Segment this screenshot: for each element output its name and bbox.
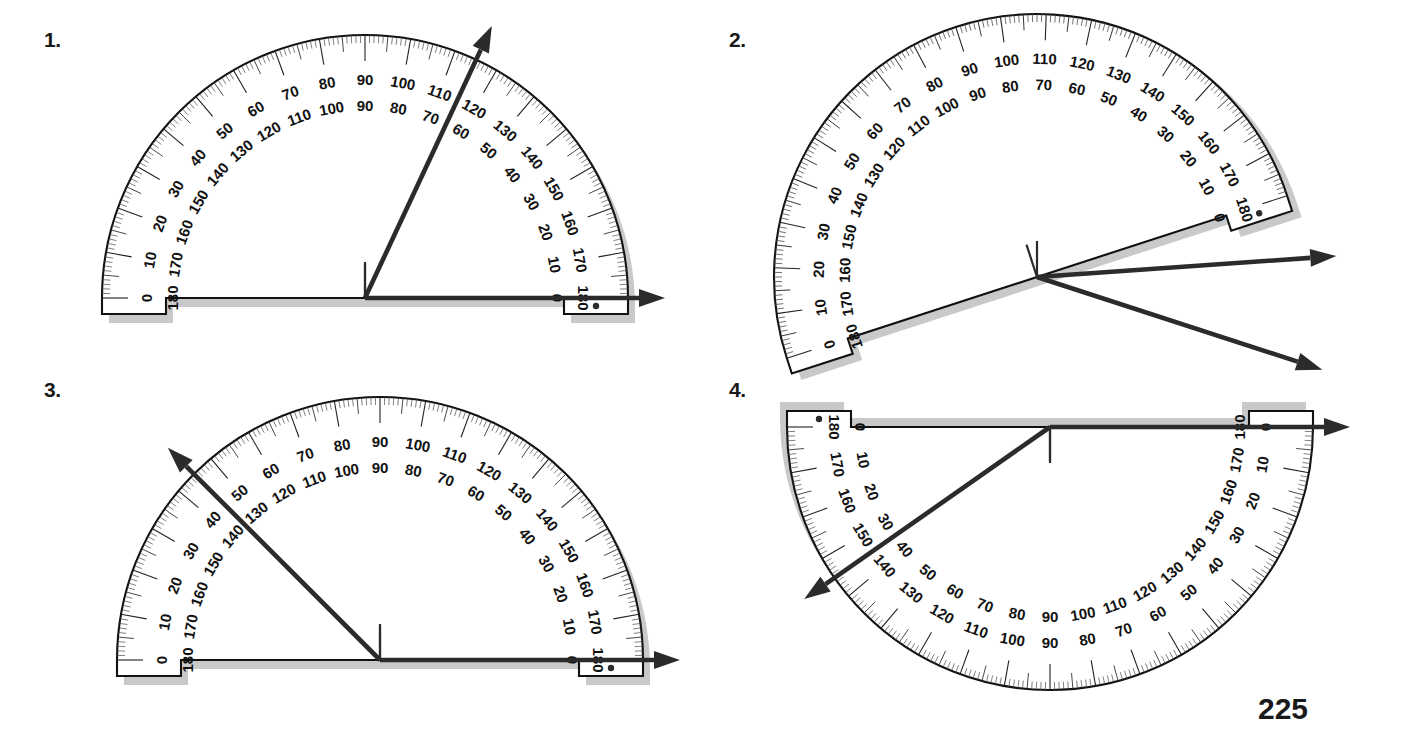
outer-scale-label: 180 — [826, 414, 843, 439]
ray-baseline — [1037, 277, 1298, 362]
outer-scale-label: 90 — [1042, 634, 1059, 651]
outer-scale-label: 10 — [1252, 455, 1272, 474]
outer-scale-label: 110 — [1032, 50, 1057, 68]
inner-scale-label: 70 — [1035, 76, 1052, 94]
arrowhead-baseline — [639, 289, 665, 307]
arrowhead-baseline — [1324, 418, 1350, 436]
origin-dot — [593, 303, 599, 309]
outer-scale-label: 10 — [140, 250, 160, 269]
inner-scale-label: 180 — [179, 647, 196, 672]
outer-scale-label: 30 — [813, 222, 833, 242]
arrowhead-baseline — [1295, 353, 1323, 370]
inner-scale-label: 170 — [836, 290, 856, 317]
arrowhead-baseline — [654, 651, 680, 669]
inner-scale-label: 160 — [836, 257, 854, 283]
inner-scale-label: 0 — [852, 423, 869, 431]
inner-scale-label: 80 — [404, 461, 423, 481]
outer-scale-label: 90 — [372, 433, 389, 450]
protractor-figure-1: 0180101702016030150401405013060120701108… — [0, 0, 700, 360]
inner-scale-label: 90 — [372, 459, 389, 476]
inner-scale-label: 80 — [1007, 604, 1026, 624]
protractor-body: 0180101702016030150401405013060120701108… — [102, 35, 635, 323]
inner-scale-label: 10 — [545, 255, 565, 274]
origin-dot — [816, 416, 822, 422]
outer-scale-label: 10 — [155, 612, 175, 631]
inner-scale-label: 90 — [1042, 608, 1059, 625]
outer-scale-label: 0 — [153, 656, 170, 664]
inner-scale-label: 60 — [1067, 79, 1087, 99]
inner-scale-label: 80 — [389, 99, 408, 119]
inner-scale-label: 80 — [1001, 77, 1020, 96]
inner-scale-label: 10 — [560, 617, 580, 636]
outer-scale-label: 0 — [138, 294, 155, 302]
origin-dot — [608, 665, 614, 671]
worksheet-page: 1. 2. 3. 4. 0180101702016030150401405013… — [0, 0, 1403, 749]
protractor-figure-3: 0180101702016030150401405013060120701108… — [0, 360, 720, 720]
arrowhead-terminal — [473, 26, 492, 53]
arrowhead-terminal — [804, 577, 830, 599]
outer-scale-label: 90 — [357, 71, 374, 88]
inner-scale-label: 90 — [357, 97, 374, 114]
protractor-figure-4: 0180101702016030150401405013060120701108… — [720, 370, 1403, 700]
protractor-body: 0180101702016030150401405013060120701108… — [117, 397, 650, 685]
outer-scale-label: 80 — [1078, 629, 1097, 649]
protractor-body: 0180101702016030150401405013060120701108… — [706, 0, 1302, 382]
outer-scale-label: 100 — [993, 50, 1020, 70]
arrowhead-terminal — [1310, 249, 1337, 267]
page-number: 225 — [1258, 692, 1308, 726]
outer-scale-label: 80 — [317, 73, 336, 93]
protractor-body: 0180101702016030150401405013060120701108… — [780, 402, 1313, 690]
outer-scale-label: 10 — [811, 298, 830, 317]
inner-scale-label: 10 — [854, 450, 874, 469]
outer-scale-label: 80 — [332, 435, 351, 455]
outer-scale-label: 20 — [810, 261, 828, 278]
inner-scale-label: 180 — [164, 285, 181, 310]
protractor-figure-2: 0180101702016030150401405013060120701108… — [700, 0, 1403, 375]
